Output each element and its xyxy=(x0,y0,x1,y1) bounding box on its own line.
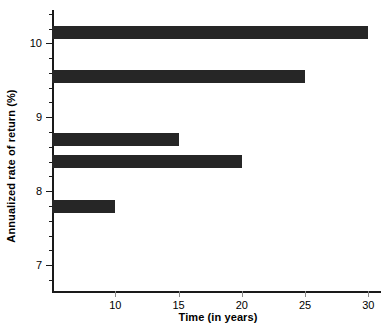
y-tick-label: 8 xyxy=(36,185,42,197)
x-tick-label: 25 xyxy=(299,299,311,311)
bar xyxy=(52,26,368,39)
bar xyxy=(52,200,115,213)
bar xyxy=(52,155,242,168)
x-axis-title: Time (in years) xyxy=(52,311,384,323)
x-tick-label: 30 xyxy=(362,299,374,311)
y-tick-label: 10 xyxy=(30,37,42,49)
y-tick-label: 9 xyxy=(36,111,42,123)
x-tick-label: 20 xyxy=(236,299,248,311)
x-tick-label: 15 xyxy=(172,299,184,311)
y-tick-label: 7 xyxy=(36,259,42,271)
plot-area xyxy=(52,10,381,293)
bar-chart: 78910 1015202530 Annualized rate of retu… xyxy=(0,0,389,332)
bar xyxy=(52,133,179,146)
x-tick-label: 10 xyxy=(109,299,121,311)
y-axis-title: Annualized rate of return (%) xyxy=(2,0,20,332)
bar xyxy=(52,70,305,83)
